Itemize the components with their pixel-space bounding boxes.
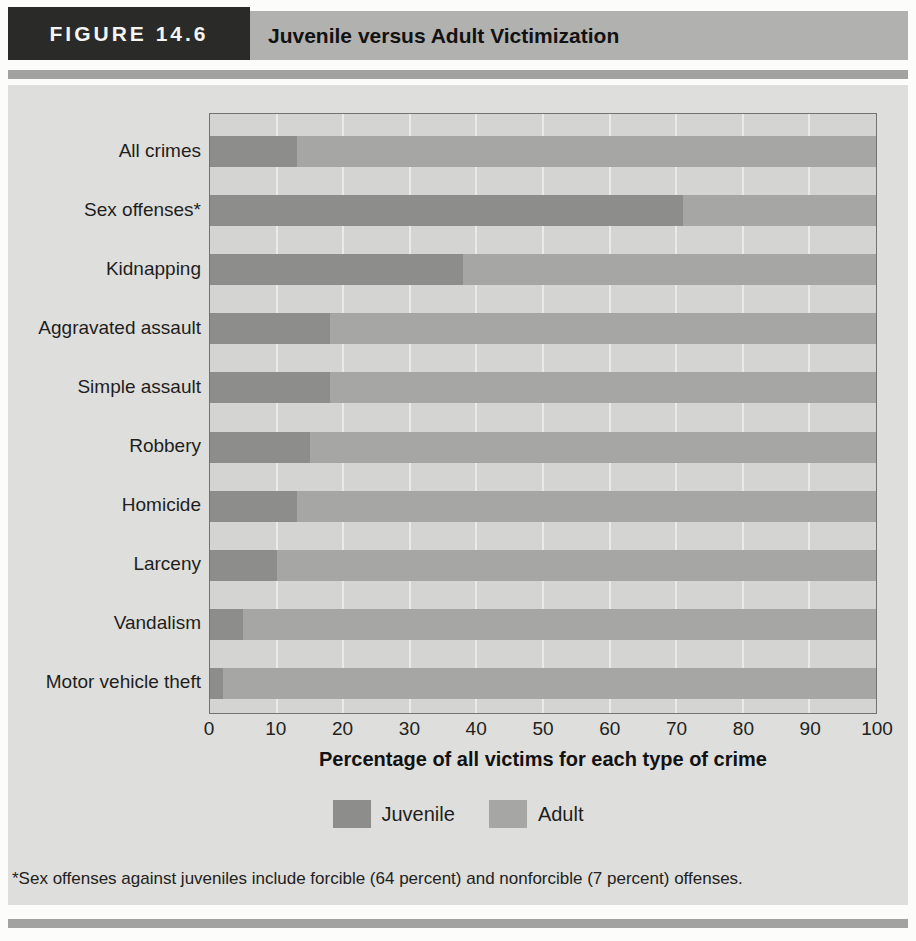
adult-bar-segment [683, 195, 876, 226]
category-label: Aggravated assault [8, 298, 201, 357]
figure-title-bar: Juvenile versus Adult Victimization [250, 11, 908, 60]
category-label: Larceny [8, 535, 201, 594]
category-label: Robbery [8, 417, 201, 476]
adult-bar-segment [223, 668, 876, 699]
stacked-bar [210, 609, 876, 640]
stacked-bar [210, 491, 876, 522]
plot-area [209, 113, 877, 714]
top-divider-rule [8, 70, 908, 79]
juvenile-bar-segment [210, 550, 277, 581]
juvenile-bar-segment [210, 372, 330, 403]
category-label: All crimes [8, 121, 201, 180]
adult-bar-segment [297, 491, 876, 522]
juvenile-bar-segment [210, 491, 297, 522]
x-tick-label: 60 [599, 718, 620, 740]
category-label: Motor vehicle theft [8, 653, 201, 712]
stacked-bar [210, 432, 876, 463]
legend-swatch-juvenile [333, 800, 371, 828]
stacked-bar [210, 254, 876, 285]
category-labels-column: All crimesSex offenses*KidnappingAggrava… [8, 113, 201, 714]
figure-number: FIGURE 14.6 [49, 22, 208, 46]
juvenile-bar-segment [210, 609, 243, 640]
juvenile-bar-segment [210, 432, 310, 463]
adult-bar-segment [330, 372, 876, 403]
adult-bar-segment [243, 609, 876, 640]
x-axis-ticks: 0102030405060708090100 [209, 716, 877, 744]
footnote: *Sex offenses against juveniles include … [8, 869, 908, 889]
legend-item: Adult [489, 800, 584, 828]
x-tick-label: 10 [265, 718, 286, 740]
figure-page: FIGURE 14.6 Juvenile versus Adult Victim… [0, 0, 916, 941]
juvenile-bar-segment [210, 313, 330, 344]
juvenile-bar-segment [210, 136, 297, 167]
juvenile-bar-segment [210, 195, 683, 226]
juvenile-bar-segment [210, 668, 223, 699]
x-tick-label: 20 [332, 718, 353, 740]
category-label: Kidnapping [8, 239, 201, 298]
category-label: Sex offenses* [8, 180, 201, 239]
stacked-bar [210, 372, 876, 403]
adult-bar-segment [297, 136, 876, 167]
x-tick-label: 70 [666, 718, 687, 740]
bottom-divider-rule [8, 919, 908, 928]
legend-label: Adult [538, 803, 584, 826]
x-tick-label: 40 [466, 718, 487, 740]
adult-bar-segment [277, 550, 876, 581]
x-tick-label: 90 [800, 718, 821, 740]
legend-swatch-adult [489, 800, 527, 828]
adult-bar-segment [310, 432, 876, 463]
x-tick-label: 30 [399, 718, 420, 740]
stacked-bar [210, 550, 876, 581]
stacked-bar [210, 136, 876, 167]
category-label: Simple assault [8, 357, 201, 416]
x-tick-label: 0 [204, 718, 215, 740]
stacked-bar [210, 313, 876, 344]
category-label: Homicide [8, 476, 201, 535]
figure-title: Juvenile versus Adult Victimization [268, 24, 619, 48]
chart-panel: All crimesSex offenses*KidnappingAggrava… [8, 85, 908, 905]
x-tick-label: 50 [532, 718, 553, 740]
x-tick-label: 80 [733, 718, 754, 740]
chart-area: All crimesSex offenses*KidnappingAggrava… [8, 113, 908, 714]
x-axis-title: Percentage of all victims for each type … [209, 748, 877, 771]
figure-header: FIGURE 14.6 Juvenile versus Adult Victim… [8, 7, 908, 60]
legend-item: Juvenile [333, 800, 455, 828]
adult-bar-segment [463, 254, 876, 285]
x-tick-label: 100 [861, 718, 893, 740]
stacked-bar [210, 195, 876, 226]
stacked-bar [210, 668, 876, 699]
juvenile-bar-segment [210, 254, 463, 285]
figure-number-box: FIGURE 14.6 [8, 7, 250, 60]
category-label: Vandalism [8, 594, 201, 653]
legend: JuvenileAdult [8, 799, 908, 829]
adult-bar-segment [330, 313, 876, 344]
legend-label: Juvenile [382, 803, 455, 826]
